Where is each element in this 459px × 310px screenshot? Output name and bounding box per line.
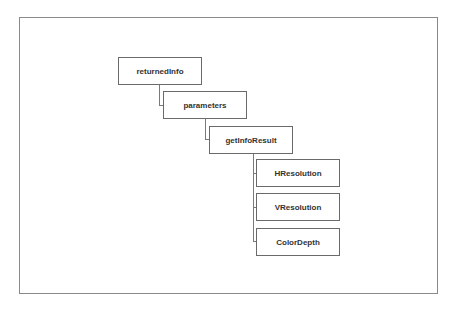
node-label: parameters xyxy=(183,101,226,110)
node-vresolution: VResolution xyxy=(256,193,340,221)
node-label: returnedInfo xyxy=(136,67,183,76)
connector-returnedinfo-parameters-v xyxy=(159,85,160,106)
connector-getinforesult-spine xyxy=(253,153,254,242)
node-label: ColorDepth xyxy=(276,238,320,247)
node-parameters: parameters xyxy=(163,91,247,119)
node-label: HResolution xyxy=(274,169,321,178)
diagram-frame xyxy=(19,17,438,294)
node-label: getInfoResult xyxy=(225,136,276,145)
node-label: VResolution xyxy=(275,203,322,212)
connector-parameters-getinforesult-v xyxy=(205,119,206,140)
node-getinforesult: getInfoResult xyxy=(209,126,293,154)
node-hresolution: HResolution xyxy=(256,159,340,187)
node-colordepth: ColorDepth xyxy=(256,228,340,256)
node-returnedinfo: returnedInfo xyxy=(118,57,202,85)
